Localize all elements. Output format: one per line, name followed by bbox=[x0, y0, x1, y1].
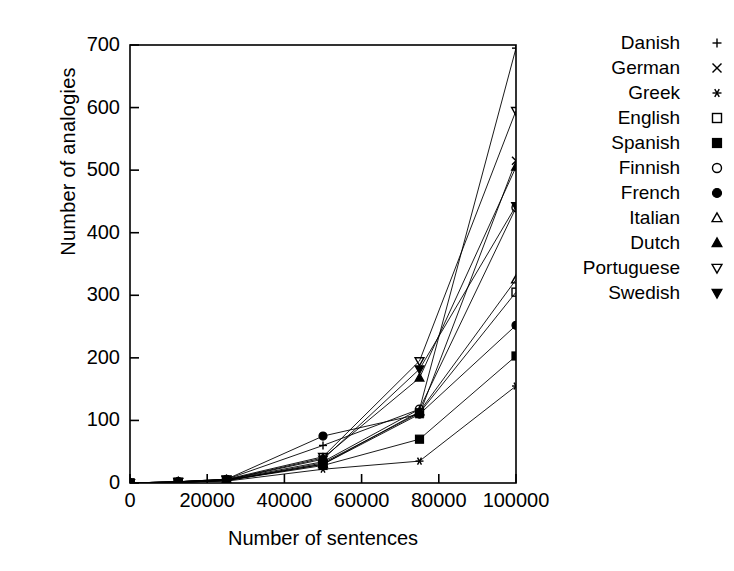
legend-marker-plus-icon bbox=[706, 32, 728, 54]
legend-label: Portuguese bbox=[552, 257, 706, 279]
legend-label: Greek bbox=[552, 82, 706, 104]
legend-marker-filled-circle-icon bbox=[706, 182, 728, 204]
legend-item-finnish[interactable]: Finnish bbox=[552, 155, 728, 180]
legend-item-greek[interactable]: Greek bbox=[552, 80, 728, 105]
series-danish bbox=[126, 44, 520, 487]
chart-legend: DanishGermanGreekEnglishSpanishFinnishFr… bbox=[552, 30, 728, 305]
legend-item-italian[interactable]: Italian bbox=[552, 205, 728, 230]
legend-marker-filled-triangle-up-icon bbox=[706, 232, 728, 254]
legend-item-french[interactable]: French bbox=[552, 180, 728, 205]
legend-label: Italian bbox=[552, 207, 706, 229]
legend-marker-filled-triangle-down-icon bbox=[706, 282, 728, 304]
legend-marker-filled-square-icon bbox=[706, 132, 728, 154]
legend-item-dutch[interactable]: Dutch bbox=[552, 230, 728, 255]
legend-label: Danish bbox=[552, 32, 706, 54]
legend-label: Spanish bbox=[552, 132, 706, 154]
chart-figure: Number of analogies Number of sentences … bbox=[0, 0, 734, 571]
legend-marker-open-triangle-up-icon bbox=[706, 207, 728, 229]
legend-item-english[interactable]: English bbox=[552, 105, 728, 130]
legend-item-spanish[interactable]: Spanish bbox=[552, 130, 728, 155]
legend-marker-asterisk-icon bbox=[706, 82, 728, 104]
series-portuguese bbox=[126, 108, 521, 488]
legend-item-german[interactable]: German bbox=[552, 55, 728, 80]
legend-label: Finnish bbox=[552, 157, 706, 179]
legend-item-danish[interactable]: Danish bbox=[552, 30, 728, 55]
legend-marker-open-triangle-down-icon bbox=[706, 257, 728, 279]
legend-label: English bbox=[552, 107, 706, 129]
legend-item-portuguese[interactable]: Portuguese bbox=[552, 255, 728, 280]
legend-marker-cross-icon bbox=[706, 57, 728, 79]
legend-label: Swedish bbox=[552, 282, 706, 304]
legend-marker-open-square-icon bbox=[706, 107, 728, 129]
legend-label: French bbox=[552, 182, 706, 204]
legend-label: German bbox=[552, 57, 706, 79]
legend-item-swedish[interactable]: Swedish bbox=[552, 280, 728, 305]
legend-label: Dutch bbox=[552, 232, 706, 254]
legend-marker-open-circle-icon bbox=[706, 157, 728, 179]
